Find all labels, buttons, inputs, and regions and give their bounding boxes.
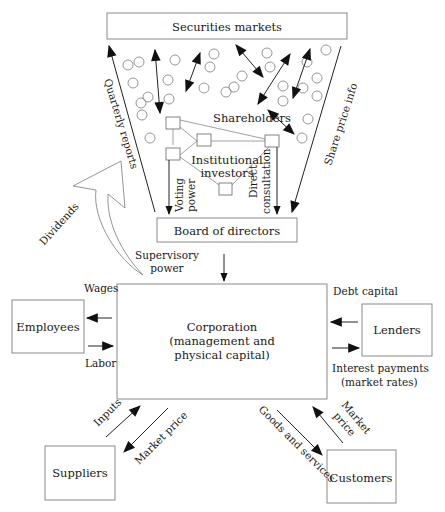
voting-power-label-line1: Voting [173,178,185,213]
dividends-label: Dividends [37,200,81,247]
dividends-edge: Dividends [37,161,143,275]
corporation-label-line1: Corporation [187,320,258,334]
board-of-directors-node: Board of directors [157,218,297,242]
interest-payments-label-line1: Interest payments [332,362,429,374]
corporation-label-line2: (management and [169,334,275,348]
labor-edge: Labor [85,346,117,369]
corporation-label-line3: physical capital) [174,348,269,362]
employees-node: Employees [12,300,84,353]
customers-label: Customers [330,471,393,485]
securities-markets-label: Securities markets [172,20,282,34]
securities-markets-node: Securities markets [107,13,347,39]
corporation-node: Corporation (management and physical cap… [117,284,327,399]
debt-capital-label: Debt capital [333,285,399,297]
lenders-label: Lenders [373,323,421,337]
direct-consultation-label-line2: consultation [260,148,272,214]
labor-label: Labor [85,357,117,369]
suppliers-label: Suppliers [52,466,108,480]
supplier-market-price-label: Market price [132,409,190,467]
customer-market-price-edge: Market price [313,399,374,443]
inputs-edge: Inputs [91,396,140,437]
supplier-market-price-edge: Market price [124,408,189,466]
inputs-label: Inputs [91,396,124,429]
supervisory-power-edge: Supervisory power [135,249,224,281]
supervisory-power-label-line2: power [150,262,184,274]
lenders-node: Lenders [362,304,432,356]
voting-power-label-line2: power [185,178,197,212]
employees-label: Employees [16,320,79,334]
wages-label: Wages [84,282,118,294]
suppliers-node: Suppliers [45,446,115,500]
board-of-directors-label: Board of directors [174,224,280,238]
interest-payments-label-line2: (market rates) [341,376,418,388]
shareholders-label: Shareholders [213,111,291,125]
voting-power-edge: Voting power [169,160,197,214]
wages-edge: Wages [84,282,118,318]
goods-and-services-edge: Goods and services [257,403,338,484]
institutional-investors-label-line2: investors [200,166,253,180]
corporate-governance-diagram: Securities markets Quarterly reports Sha… [0,0,445,512]
direct-consultation-label-line1: Direct [247,164,259,198]
supervisory-power-label-line1: Supervisory [135,249,199,261]
shareholder-circles [123,45,331,143]
customers-node: Customers [327,450,396,503]
goods-and-services-label: Goods and services [257,403,338,484]
